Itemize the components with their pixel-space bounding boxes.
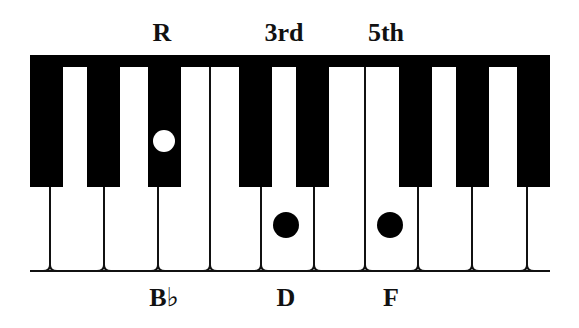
black-key bbox=[148, 55, 181, 187]
fifth-marker-dot bbox=[377, 212, 403, 238]
root-marker-dot bbox=[153, 130, 175, 152]
piano-keyboard bbox=[0, 0, 579, 328]
black-key bbox=[239, 55, 272, 187]
note-label-d: D bbox=[277, 285, 296, 311]
black-key bbox=[30, 55, 63, 187]
black-key bbox=[517, 55, 550, 187]
black-key bbox=[399, 55, 432, 187]
label-fifth: 5th bbox=[368, 20, 404, 46]
note-label-b-flat: B♭ bbox=[149, 285, 179, 311]
keyboard-diagram: R 3rd 5th B♭ D F bbox=[0, 0, 579, 328]
note-label-f: F bbox=[383, 285, 399, 311]
black-key bbox=[296, 55, 329, 187]
black-key bbox=[87, 55, 120, 187]
third-marker-dot bbox=[273, 212, 299, 238]
black-key bbox=[456, 55, 489, 187]
label-root: R bbox=[153, 20, 172, 46]
label-third: 3rd bbox=[265, 20, 304, 46]
